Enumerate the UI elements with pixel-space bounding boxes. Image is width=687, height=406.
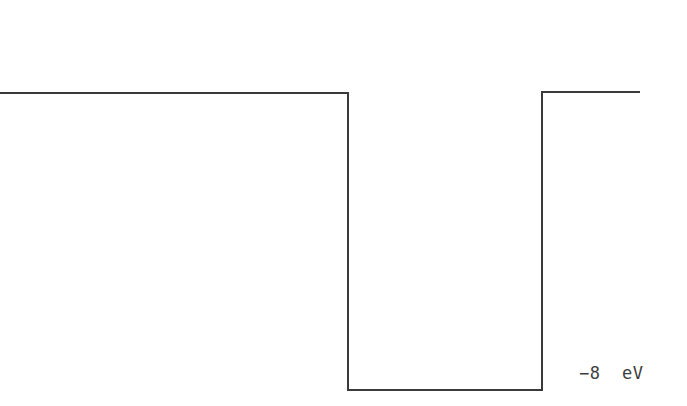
potential-well-plot [0, 0, 687, 406]
energy-level-label: −8 eV [579, 362, 643, 384]
potential-well-curve [0, 92, 640, 390]
potential-well-figure: −8 eV [0, 0, 687, 406]
